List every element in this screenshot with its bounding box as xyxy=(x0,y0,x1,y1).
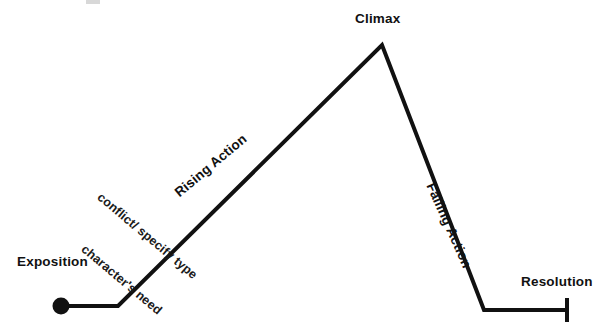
label-exposition: Exposition xyxy=(17,255,88,269)
label-resolution: Resolution xyxy=(521,275,593,289)
plot-diagram: Exposition character's need conflict/ sp… xyxy=(0,0,614,334)
story-arc-line xyxy=(61,45,568,310)
label-climax: Climax xyxy=(355,12,400,26)
exposition-start-dot xyxy=(53,298,70,315)
